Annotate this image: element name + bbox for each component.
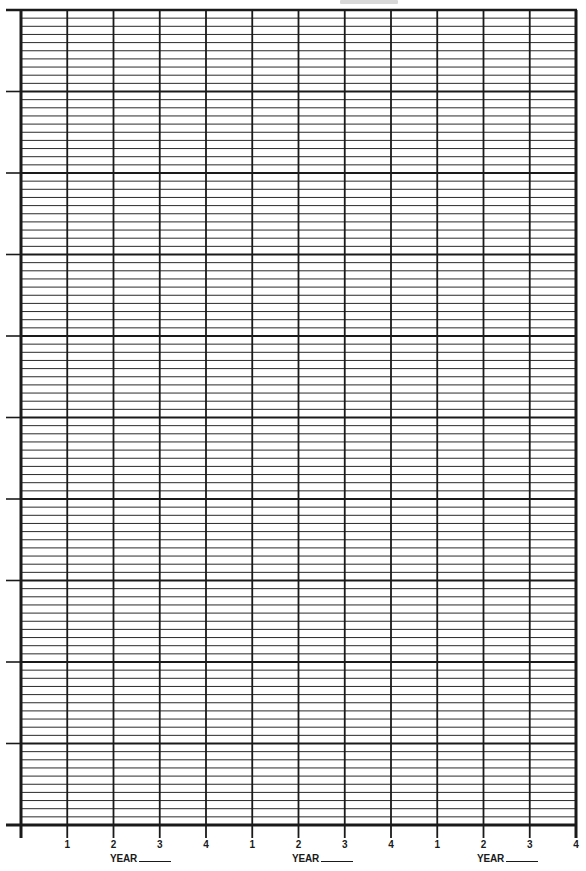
cropped-header-fragment [340,0,398,4]
gridlines-vertical [67,10,530,838]
quarter-label: 4 [381,839,401,850]
quarter-label: 2 [474,839,494,850]
year-label-text: YEAR [110,853,137,864]
year-label-text: YEAR [292,853,319,864]
chart-grid [0,0,586,871]
quarter-label: 2 [289,839,309,850]
quarter-label: 1 [57,839,77,850]
axis-ticks [6,92,21,744]
quarter-label: 1 [427,839,447,850]
year-label-3: YEAR [477,853,538,864]
quarter-label: 4 [566,839,586,850]
quarter-label: 4 [196,839,216,850]
quarter-label: 2 [104,839,124,850]
quarter-label: 3 [150,839,170,850]
quarter-label: 1 [242,839,262,850]
quarter-label: 3 [520,839,540,850]
year-blank-field[interactable] [321,861,353,862]
year-blank-field[interactable] [506,861,538,862]
year-blank-field[interactable] [139,861,171,862]
chart-border [6,10,577,838]
year-label-2: YEAR [292,853,353,864]
quarter-label: 3 [335,839,355,850]
year-label-text: YEAR [477,853,504,864]
year-label-1: YEAR [110,853,171,864]
